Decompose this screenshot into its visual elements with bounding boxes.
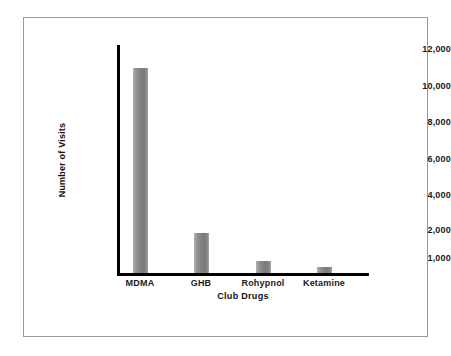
x-tick-label-ketamine: Ketamine [303,278,345,288]
bar-ghb [194,233,209,273]
y-axis-title: Number of Visits [57,123,67,198]
y-tick-label-12000: 12,000 [339,45,451,54]
figure-container: 12,000 10,000 8,000 6,000 4,000 2,000 1,… [0,0,451,356]
x-tick-label-ghb: GHB [191,278,212,288]
bar-mdma [133,68,148,273]
x-axis-line [117,273,369,276]
x-axis-title: Club Drugs [217,291,269,301]
bar-ketamine [317,267,332,273]
y-tick-label-1000: 1,000 [339,254,451,263]
y-tick-label-2000: 2,000 [339,226,451,235]
y-axis-line [117,45,120,276]
x-tick-label-mdma: MDMA [126,278,155,288]
y-tick-label-10000: 10,000 [339,82,451,91]
y-tick-label-6000: 6,000 [339,155,451,164]
plot-area: 12,000 10,000 8,000 6,000 4,000 2,000 1,… [0,0,451,356]
bar-rohypnol [256,261,271,273]
y-tick-label-4000: 4,000 [339,191,451,200]
y-tick-label-8000: 8,000 [339,118,451,127]
x-tick-label-rohypnol: Rohypnol [241,278,284,288]
